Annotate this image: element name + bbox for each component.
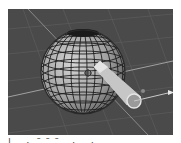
y-axis-handle-icon[interactable]	[141, 89, 145, 93]
viewport-scene[interactable]	[8, 9, 173, 135]
3d-viewport[interactable]	[8, 9, 173, 135]
caption-text: | · ̄ ̄ ̄ · ·	[8, 137, 178, 143]
